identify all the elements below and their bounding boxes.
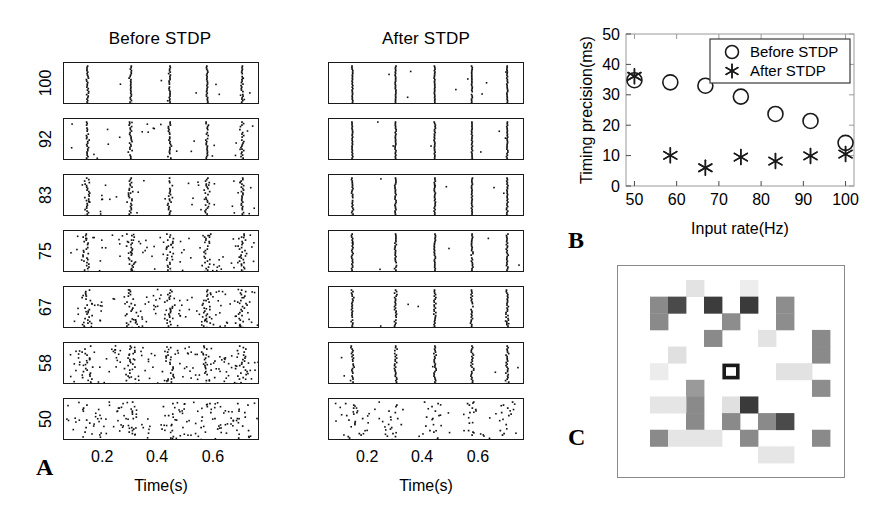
- datapoint-before-1: [663, 75, 678, 90]
- weight-cell: [776, 363, 794, 380]
- weight-cell: [722, 413, 740, 430]
- datapoint-before-3: [733, 89, 748, 104]
- panel-a-xtick-after-1: 0.4: [411, 449, 433, 465]
- raster-plot-before-92hz: [63, 118, 259, 160]
- panel-a-xtick-after-0: 0.2: [356, 449, 378, 465]
- raster-plot-after-58hz: [328, 342, 524, 384]
- panel-a-row-label-67: 67: [38, 298, 54, 316]
- panel-a-xtick-before-2: 0.6: [202, 449, 224, 465]
- panel-c-weight-map: [617, 265, 845, 478]
- weight-cell: [740, 297, 758, 314]
- weight-cell: [704, 430, 722, 447]
- weight-cell: [650, 396, 668, 413]
- svg-text:Timing precision(ms): Timing precision(ms): [578, 36, 595, 184]
- weight-cell: [668, 430, 686, 447]
- raster-plot-before-67hz: [63, 286, 259, 328]
- weight-cell: [650, 430, 668, 447]
- panel-letter-b: B: [568, 228, 584, 252]
- svg-text:50: 50: [602, 26, 620, 43]
- svg-text:50: 50: [626, 191, 644, 208]
- raster-plot-before-75hz: [63, 230, 259, 272]
- raster-plot-before-58hz: [63, 342, 259, 384]
- weight-cell: [704, 330, 722, 347]
- target-neuron-cell: [724, 365, 738, 377]
- datapoint-after-1: [664, 148, 677, 163]
- weight-cell: [740, 430, 758, 447]
- weight-cell: [686, 430, 704, 447]
- weight-cell: [722, 396, 740, 413]
- svg-text:60: 60: [668, 191, 686, 208]
- panel-a-xtick-after-2: 0.6: [467, 449, 489, 465]
- datapoint-after-4: [769, 154, 782, 169]
- figure-root: Before STDPAfter STDP1009283756758500.20…: [0, 0, 872, 507]
- weight-cell: [812, 380, 830, 397]
- weight-cell: [776, 446, 794, 463]
- weight-cell: [740, 280, 758, 297]
- weight-cell: [776, 313, 794, 330]
- weight-cell: [668, 347, 686, 364]
- raster-plot-before-83hz: [63, 174, 259, 216]
- weight-cell: [686, 413, 704, 430]
- weight-cell: [812, 330, 830, 347]
- weight-cell: [668, 396, 686, 413]
- svg-text:90: 90: [794, 191, 812, 208]
- svg-text:10: 10: [602, 147, 620, 164]
- svg-text:30: 30: [602, 86, 620, 103]
- panel-a-row-label-58: 58: [38, 354, 54, 372]
- raster-plot-after-100hz: [328, 62, 524, 104]
- svg-text:20: 20: [602, 117, 620, 134]
- panel-a-row-label-100: 100: [38, 70, 54, 97]
- datapoint-after-2: [699, 160, 712, 175]
- panel-a-xaxis-title-before: Time(s): [134, 478, 188, 494]
- panel-a-row-label-50: 50: [38, 410, 54, 428]
- panel-a-row-label-83: 83: [38, 186, 54, 204]
- weight-cell: [650, 363, 668, 380]
- weight-cell: [686, 380, 704, 397]
- weight-cell: [758, 446, 776, 463]
- panel-a-column-title-after: After STDP: [382, 30, 470, 47]
- panel-a-xtick-before-1: 0.4: [146, 449, 168, 465]
- weight-cell: [776, 297, 794, 314]
- panel-a-xaxis-title-after: Time(s): [399, 478, 453, 494]
- weight-cell: [650, 313, 668, 330]
- raster-plot-after-75hz: [328, 230, 524, 272]
- panel-a-row-label-75: 75: [38, 242, 54, 260]
- datapoint-after-3: [734, 150, 747, 165]
- panel-a-column-title-before: Before STDP: [109, 30, 211, 47]
- raster-plot-after-83hz: [328, 174, 524, 216]
- weight-cell: [668, 297, 686, 314]
- panel-a-row-label-92: 92: [38, 130, 54, 148]
- weight-cell: [776, 413, 794, 430]
- weight-cell: [722, 313, 740, 330]
- datapoint-after-5: [804, 148, 817, 163]
- panel-letter-a: A: [36, 455, 53, 479]
- svg-text:Before STDP: Before STDP: [750, 43, 838, 60]
- raster-plot-after-67hz: [328, 286, 524, 328]
- weight-cell: [686, 280, 704, 297]
- panel-b-scatter-plot: 506070809010001020304050Input rate(Hz)Ti…: [576, 14, 866, 244]
- weight-cell: [794, 363, 812, 380]
- svg-text:Input rate(Hz): Input rate(Hz): [691, 220, 789, 237]
- weight-cell: [758, 330, 776, 347]
- svg-text:After STDP: After STDP: [750, 62, 826, 79]
- svg-text:80: 80: [752, 191, 770, 208]
- datapoint-before-4: [768, 106, 783, 121]
- weight-cell: [758, 413, 776, 430]
- panel-letter-c: C: [568, 425, 585, 449]
- datapoint-after-0: [628, 69, 641, 84]
- svg-text:100: 100: [832, 191, 859, 208]
- svg-text:40: 40: [602, 56, 620, 73]
- weight-cell: [740, 396, 758, 413]
- weight-cell: [650, 297, 668, 314]
- raster-plot-after-50hz: [328, 398, 524, 440]
- datapoint-before-5: [803, 113, 818, 128]
- panel-a-xtick-before-0: 0.2: [91, 449, 113, 465]
- raster-plot-before-100hz: [63, 62, 259, 104]
- svg-text:0: 0: [611, 178, 620, 195]
- raster-plot-before-50hz: [63, 398, 259, 440]
- raster-plot-after-92hz: [328, 118, 524, 160]
- weight-cell: [704, 297, 722, 314]
- svg-text:70: 70: [710, 191, 728, 208]
- weight-cell: [686, 396, 704, 413]
- weight-cell: [812, 347, 830, 364]
